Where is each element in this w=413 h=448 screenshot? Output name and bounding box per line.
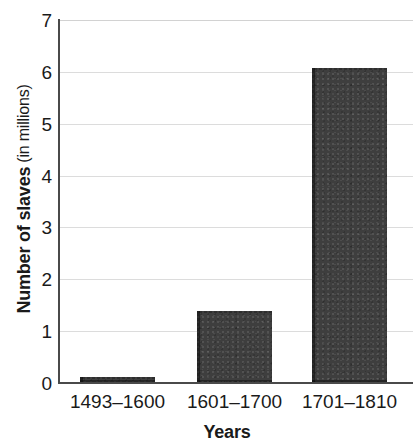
x-axis-line [58, 382, 413, 384]
y-axis-tick-label: 7 [26, 11, 52, 30]
bar [197, 311, 272, 383]
plot-area [60, 20, 413, 383]
x-axis-tick-label: 1701–1810 [290, 392, 410, 413]
x-axis-tick-label: 1493–1600 [58, 392, 178, 413]
y-axis-tick-label: 6 [26, 63, 52, 82]
gridline [60, 20, 413, 21]
y-axis-line [58, 19, 60, 384]
x-axis-title: Years [60, 423, 394, 441]
y-axis-tick-label: 1 [26, 322, 52, 341]
y-axis-tick-label: 2 [26, 270, 52, 289]
y-axis-tick-label: 3 [26, 218, 52, 237]
y-axis-tick-labels: 76543210 [26, 0, 52, 448]
bar-chart: Number of slaves (in millions) 76543210 … [0, 0, 413, 448]
x-axis-tick-labels: 1493–16001601–17001701–1810 [0, 392, 413, 422]
x-axis-tick-label: 1601–1700 [175, 392, 295, 413]
bar [312, 68, 387, 383]
y-axis-tick-label: 5 [26, 115, 52, 134]
y-axis-tick-label: 0 [26, 374, 52, 393]
y-axis-tick-label: 4 [26, 167, 52, 186]
